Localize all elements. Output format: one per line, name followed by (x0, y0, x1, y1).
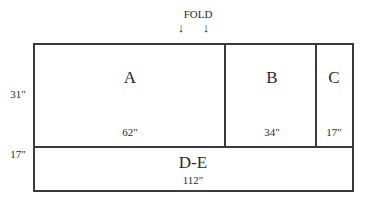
outer-right-border (352, 43, 354, 192)
panel-c-width: 17" (316, 126, 352, 138)
top-row-height: 31" (6, 88, 30, 100)
fold-arrow-left-icon: ↓ (175, 20, 187, 36)
bottom-row-height: 17" (6, 148, 30, 160)
outer-top-border (33, 43, 353, 45)
divider-a-b (224, 43, 226, 147)
panel-c-label: C (316, 68, 352, 88)
panel-a-label: A (110, 68, 150, 88)
panel-de-label: D-E (173, 153, 213, 173)
row-divider (33, 146, 353, 148)
panel-de-width: 112" (173, 174, 213, 186)
fold-label: FOLD (178, 8, 218, 20)
outer-left-border (33, 43, 35, 192)
outer-bottom-border (33, 190, 353, 192)
panel-b-label: B (252, 68, 292, 88)
panel-a-width: 62" (110, 126, 150, 138)
fold-arrow-right-icon: ↓ (200, 20, 212, 36)
panel-b-width: 34" (252, 126, 292, 138)
